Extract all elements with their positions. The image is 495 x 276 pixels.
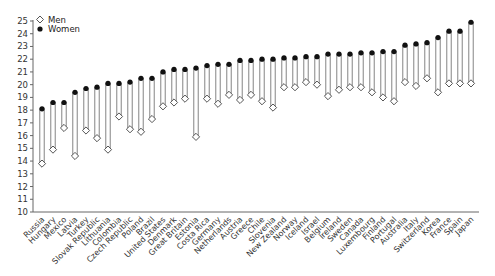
legend-label-men: Men xyxy=(48,15,66,25)
range-bar xyxy=(249,60,253,94)
legend-item-women: Women xyxy=(37,24,80,34)
country-range xyxy=(49,100,56,153)
women-dot-marker xyxy=(303,54,308,59)
y-tick-label: 24 xyxy=(17,29,28,39)
y-tick-label: 17 xyxy=(17,118,28,128)
range-bar xyxy=(447,31,451,83)
y-tick-label: 16 xyxy=(17,131,28,141)
women-dot-marker xyxy=(292,55,297,60)
women-dot-marker xyxy=(270,57,275,62)
women-dot-marker xyxy=(105,81,110,86)
country-range xyxy=(192,66,199,141)
y-tick-label: 10 xyxy=(17,207,28,217)
women-dot-marker xyxy=(435,35,440,40)
y-tick-label: 12 xyxy=(17,182,28,192)
women-dot-marker xyxy=(424,40,429,45)
women-dot-marker xyxy=(83,86,88,91)
women-dot-marker xyxy=(116,81,121,86)
country-range xyxy=(82,86,89,134)
y-tick-label: 25 xyxy=(17,16,28,26)
range-bar xyxy=(161,72,165,106)
country-range xyxy=(236,58,243,104)
range-bar xyxy=(403,45,407,82)
range-bar xyxy=(194,68,198,137)
range-bar xyxy=(128,82,132,129)
y-tick-label: 20 xyxy=(17,80,28,90)
range-bar xyxy=(73,92,77,156)
range-bar xyxy=(293,58,297,87)
country-range xyxy=(291,55,298,90)
country-range xyxy=(390,49,397,105)
range-bar xyxy=(51,102,55,149)
country-range xyxy=(269,57,276,112)
y-tick-label: 18 xyxy=(17,105,28,115)
women-dot-marker xyxy=(358,50,363,55)
women-dot-marker xyxy=(457,29,462,34)
women-dot-marker xyxy=(325,52,330,57)
women-dot-marker xyxy=(215,62,220,67)
women-dot-marker xyxy=(468,20,473,25)
country-range xyxy=(104,81,111,153)
country-range xyxy=(423,40,430,82)
country-range xyxy=(181,67,188,102)
range-bar xyxy=(117,83,121,116)
legend-item-men: Men xyxy=(37,15,66,25)
women-dot-marker xyxy=(138,76,143,81)
range-bar xyxy=(359,53,363,87)
women-dot-marker xyxy=(127,80,132,85)
country-range xyxy=(324,52,331,100)
y-axis: 10111213141516171819202122232425 xyxy=(17,16,33,217)
range-bar xyxy=(205,66,209,99)
data-bars xyxy=(38,20,474,168)
y-tick-label: 15 xyxy=(17,143,28,153)
country-range xyxy=(115,81,122,120)
women-dot-marker xyxy=(259,57,264,62)
y-tick-label: 23 xyxy=(17,41,28,51)
life-expectancy-chart: 10111213141516171819202122232425 RussiaH… xyxy=(0,0,495,276)
country-range xyxy=(346,52,353,91)
country-range xyxy=(379,49,386,101)
women-dot-marker xyxy=(413,41,418,46)
country-range xyxy=(313,54,320,88)
y-tick-label: 19 xyxy=(17,92,28,102)
women-dot-marker xyxy=(237,58,242,63)
range-bar xyxy=(40,109,44,164)
women-dot-marker xyxy=(182,67,187,72)
country-range xyxy=(247,58,254,99)
women-dot-marker xyxy=(226,62,231,67)
range-bar xyxy=(458,31,462,83)
country-range xyxy=(434,35,441,96)
country-range xyxy=(225,62,232,99)
chart-canvas: 10111213141516171819202122232425 RussiaH… xyxy=(0,0,495,276)
range-bar xyxy=(370,53,374,92)
women-dot-marker xyxy=(72,90,77,95)
range-bar xyxy=(348,54,352,87)
range-bar xyxy=(84,88,88,130)
country-range xyxy=(203,63,210,102)
country-range xyxy=(467,20,474,87)
women-dot-marker xyxy=(248,58,253,63)
country-range xyxy=(93,85,100,142)
country-range xyxy=(148,76,155,123)
legend: Men Women xyxy=(37,15,81,35)
range-bar xyxy=(172,69,176,102)
range-bar xyxy=(425,43,429,79)
women-dot-marker xyxy=(50,100,55,105)
women-dot-marker xyxy=(160,69,165,74)
range-bar xyxy=(216,64,220,103)
country-range xyxy=(258,57,265,105)
y-tick-label: 11 xyxy=(17,194,28,204)
range-bar xyxy=(337,54,341,90)
country-range xyxy=(214,62,221,108)
country-range xyxy=(335,52,342,94)
range-bar xyxy=(414,44,418,86)
women-dot-marker xyxy=(314,54,319,59)
country-range xyxy=(159,69,166,110)
women-dot-marker xyxy=(391,49,396,54)
range-bar xyxy=(282,58,286,87)
women-dot-marker xyxy=(281,55,286,60)
country-range xyxy=(302,54,309,86)
women-dot-marker xyxy=(369,50,374,55)
country-range xyxy=(357,50,364,91)
country-range xyxy=(170,67,177,106)
